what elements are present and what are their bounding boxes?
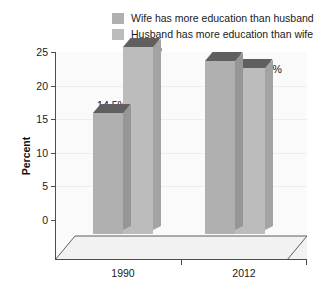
bar-face (205, 61, 235, 234)
legend-swatch-husband (112, 29, 124, 40)
chart-legend: Wife has more education than husband Hus… (112, 13, 314, 40)
bar-1990-wife[interactable] (93, 113, 123, 234)
y-tick-label-20: 20 (36, 80, 48, 92)
plot-area: 14.5% 22.4% 20.7% 19.9% 25 20 15 10 5 0 … (55, 52, 307, 260)
bar-side (123, 105, 131, 230)
x-label-1990: 1990 (111, 267, 134, 279)
y-tick-20 (51, 86, 55, 87)
bar-side (265, 60, 273, 230)
y-tick-label-5: 5 (42, 180, 48, 192)
y-tick-15 (51, 119, 55, 120)
x-label-2012: 2012 (232, 267, 255, 279)
bar-side (235, 53, 243, 230)
bar-chart: Wife has more education than husband Hus… (0, 0, 335, 294)
bar-side (153, 39, 161, 230)
legend-label-wife: Wife has more education than husband (131, 13, 314, 24)
legend-item-wife: Wife has more education than husband (112, 13, 314, 24)
y-tick-10 (51, 153, 55, 154)
y-tick-5 (51, 186, 55, 187)
y-tick-label-10: 10 (36, 147, 48, 159)
bar-face (93, 113, 123, 234)
y-tick-label-25: 25 (36, 46, 48, 58)
y-tick-25 (51, 52, 55, 53)
y-axis (55, 52, 56, 260)
bar-group-container (55, 52, 307, 260)
x-tick-divider (181, 260, 182, 265)
legend-swatch-wife (112, 13, 124, 24)
bar-2012-wife[interactable] (205, 61, 235, 234)
y-tick-0 (51, 220, 55, 221)
y-tick-label-0: 0 (42, 214, 48, 226)
y-axis-title: Percent (20, 137, 32, 176)
y-tick-label-15: 15 (36, 113, 48, 125)
x-tick-end (306, 260, 307, 265)
